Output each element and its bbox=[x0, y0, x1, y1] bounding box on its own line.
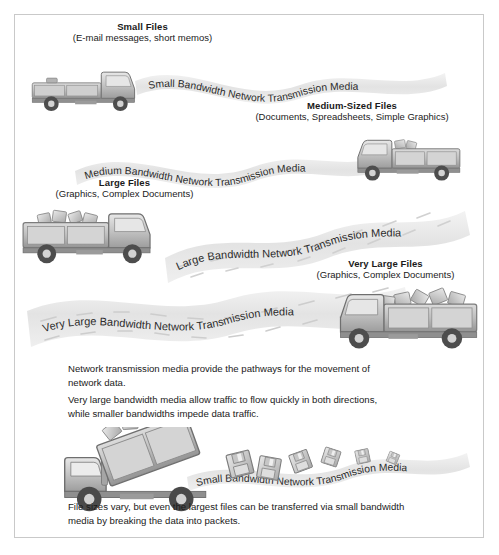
truck-small-icon bbox=[32, 72, 134, 111]
note-line: Network transmission media provide the p… bbox=[68, 362, 370, 376]
floppy-disk-icon bbox=[289, 449, 313, 473]
caption-very-large-files: Very Large Files (Graphics, Complex Docu… bbox=[293, 258, 478, 280]
truck-very-large-icon bbox=[341, 288, 477, 349]
diagram-frame: Small Bandwidth Network Transmission Med… bbox=[14, 14, 484, 538]
caption-medium-files: Medium-Sized Files (Documents, Spreadshe… bbox=[227, 100, 477, 122]
caption-title: Medium-Sized Files bbox=[227, 100, 477, 111]
floppy-disk-icon bbox=[226, 450, 254, 478]
floppy-disk-icon bbox=[256, 455, 281, 480]
caption-title: Very Large Files bbox=[293, 258, 478, 269]
note-transmission-media: Network transmission media provide the p… bbox=[68, 362, 370, 389]
truck-medium-icon bbox=[358, 139, 460, 180]
caption-small-files: Small Files (E-mail messages, short memo… bbox=[35, 21, 250, 43]
caption-title: Large Files bbox=[27, 177, 222, 188]
note-packets: File sizes vary, but even the largest fi… bbox=[68, 500, 404, 527]
ribbon-label-bottom: Small Bandwidth Network Transmission Med… bbox=[195, 462, 408, 489]
note-bandwidth-traffic: Very large bandwidth media allow traffic… bbox=[68, 393, 377, 420]
caption-subtitle: (E-mail messages, short memos) bbox=[35, 32, 250, 43]
ribbon-very-large: Very Large Bandwidth Network Transmissio… bbox=[27, 287, 411, 347]
truck-large-icon bbox=[23, 210, 150, 263]
note-line: Very large bandwidth media allow traffic… bbox=[68, 393, 377, 407]
floppy-trail bbox=[226, 447, 400, 481]
floppy-disk-icon bbox=[386, 451, 400, 465]
note-line: network data. bbox=[68, 376, 370, 390]
caption-subtitle: (Graphics, Complex Documents) bbox=[27, 188, 222, 199]
ribbon-label-very-large: Very Large Bandwidth Network Transmissio… bbox=[41, 305, 295, 334]
note-line: media by breaking the data into packets. bbox=[68, 514, 404, 528]
floppy-disk-icon bbox=[321, 447, 341, 467]
floppy-disk-icon bbox=[355, 448, 371, 464]
caption-large-files: Large Files (Graphics, Complex Documents… bbox=[27, 177, 222, 199]
ribbon-bottom: Small Bandwidth Network Transmission Med… bbox=[187, 453, 470, 491]
caption-subtitle: (Documents, Spreadsheets, Simple Graphic… bbox=[227, 111, 477, 122]
caption-title: Small Files bbox=[35, 21, 250, 32]
caption-subtitle: (Graphics, Complex Documents) bbox=[293, 269, 478, 280]
diagram-stage: Small Bandwidth Network Transmission Med… bbox=[15, 15, 483, 537]
note-line: File sizes vary, but even the largest fi… bbox=[68, 500, 404, 514]
note-line: while smaller bandwidths impede data tra… bbox=[68, 407, 377, 421]
